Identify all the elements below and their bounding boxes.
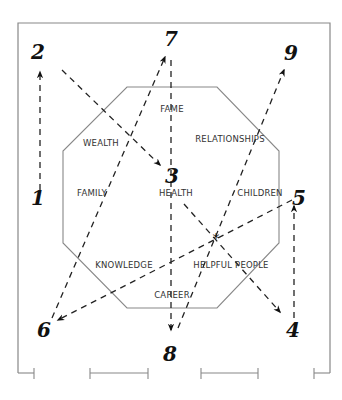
star-number-7: 7 [164, 27, 178, 51]
area-label-fame: FAME [160, 104, 183, 114]
path-arrow-8-to-9 [178, 70, 284, 328]
area-label-career: CAREER [154, 290, 190, 300]
scale-marks [18, 368, 330, 379]
page-frame [18, 23, 330, 373]
star-number-3: 3 [165, 164, 179, 188]
star-number-5: 5 [292, 186, 306, 210]
area-label-family: FAMILY [77, 188, 107, 198]
star-number-4: 4 [286, 318, 300, 342]
area-label-wealth: WEALTH [83, 138, 119, 148]
star-number-9: 9 [284, 41, 298, 65]
star-number-6: 6 [37, 318, 51, 342]
bagua-diagram: FAMEWEALTHRELATIONSHIPSFAMILYHEALTHCHILD… [0, 0, 342, 400]
life-area-labels: FAMEWEALTHRELATIONSHIPSFAMILYHEALTHCHILD… [77, 104, 283, 300]
star-number-8: 8 [162, 342, 177, 366]
area-label-knowledge: KNOWLEDGE [95, 260, 152, 270]
center-marker: * [213, 230, 220, 246]
area-label-helpful-people: HELPFUL PEOPLE [193, 260, 268, 270]
star-number-1: 1 [31, 186, 45, 210]
center-star-icon: * [213, 230, 220, 246]
area-label-children: CHILDREN [237, 188, 282, 198]
path-arrow-3-to-4 [184, 204, 280, 312]
area-label-health: HEALTH [159, 188, 193, 198]
frame-outline [18, 23, 330, 373]
star-number-2: 2 [30, 40, 45, 64]
area-label-relationships: RELATIONSHIPS [195, 134, 265, 144]
path-arrow-6-to-7 [52, 57, 165, 318]
path-arrow-2-to-3 [62, 70, 160, 165]
